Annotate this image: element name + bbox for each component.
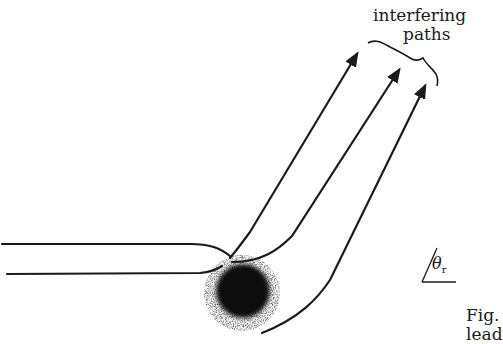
outgoing-path-1	[230, 54, 357, 258]
outgoing-path-2	[232, 70, 399, 262]
theta-subscript: r	[442, 264, 447, 275]
curly-brace	[368, 41, 438, 86]
theta-symbol: θ	[432, 254, 442, 273]
caption-fig: Fig.	[466, 305, 500, 325]
scatterer	[204, 255, 280, 331]
incoming-path-bottom	[7, 266, 222, 274]
caption-lead: lead	[466, 324, 503, 344]
incoming-paths	[2, 244, 230, 274]
incoming-path-top	[2, 244, 230, 256]
label-paths: paths	[403, 25, 451, 44]
label-interfering: interfering	[373, 6, 466, 25]
label-theta-r: θr	[432, 254, 446, 275]
outgoing-path-3	[262, 86, 425, 333]
